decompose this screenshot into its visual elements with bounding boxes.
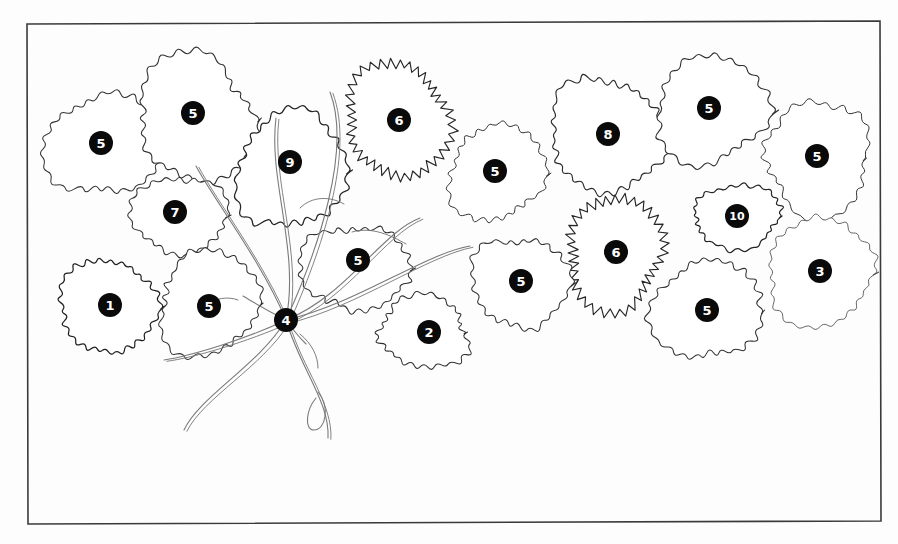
species-marker-7[interactable]: 7 [163,200,187,224]
species-marker-10[interactable]: 10 [725,204,749,228]
marker-disc[interactable] [596,122,620,146]
marker-disc[interactable] [697,96,721,120]
species-marker-2[interactable]: 2 [417,320,441,344]
species-marker-8[interactable]: 8 [596,122,620,146]
marker-disc[interactable] [197,294,221,318]
species-marker-5[interactable]: 5 [483,159,507,183]
species-marker-5[interactable]: 5 [197,294,221,318]
species-marker-9[interactable]: 9 [278,150,302,174]
species-marker-5[interactable]: 5 [697,96,721,120]
marker-disc[interactable] [278,150,302,174]
species-marker-1[interactable]: 1 [98,293,122,317]
species-marker-5[interactable]: 5 [695,298,719,322]
marker-disc[interactable] [274,308,298,332]
species-marker-5[interactable]: 5 [181,101,205,125]
species-marker-5[interactable]: 5 [805,144,829,168]
marker-disc[interactable] [163,200,187,224]
marker-disc[interactable] [98,293,122,317]
marker-disc[interactable] [509,269,533,293]
marker-disc[interactable] [725,204,749,228]
species-marker-5[interactable]: 5 [509,269,533,293]
canopy-map-svg: 55965855710565315425 [0,0,898,544]
figure-root: 55965855710565315425 [0,0,898,544]
species-marker-5[interactable]: 5 [346,248,370,272]
species-marker-3[interactable]: 3 [808,259,832,283]
marker-disc[interactable] [695,298,719,322]
marker-disc[interactable] [181,101,205,125]
marker-disc[interactable] [89,131,113,155]
species-marker-4[interactable]: 4 [274,308,298,332]
marker-disc[interactable] [417,320,441,344]
marker-disc[interactable] [387,108,411,132]
species-marker-5[interactable]: 5 [89,131,113,155]
marker-disc[interactable] [604,240,628,264]
marker-disc[interactable] [805,144,829,168]
figure-background [0,0,898,544]
marker-disc[interactable] [808,259,832,283]
species-marker-6[interactable]: 6 [387,108,411,132]
marker-disc[interactable] [346,248,370,272]
species-marker-6[interactable]: 6 [604,240,628,264]
marker-disc[interactable] [483,159,507,183]
